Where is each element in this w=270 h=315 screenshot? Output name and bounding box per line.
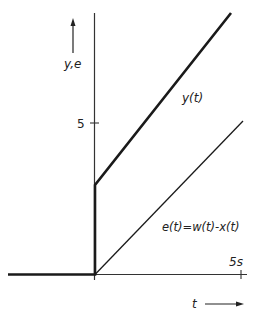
x-axis-label: t <box>192 297 198 311</box>
e-curve-label: e(t)=w(t)-x(t) <box>162 220 240 234</box>
step-response-diagram: y,e 5 y(t) e(t)=w(t)-x(t) 5s t <box>0 0 270 315</box>
e-curve <box>95 121 243 275</box>
y-curve <box>8 13 231 275</box>
x-tick-label: 5s <box>229 255 243 269</box>
y-tick-label: 5 <box>77 117 85 131</box>
y-curve-label: y(t) <box>181 91 203 105</box>
y-axis-label: y,e <box>63 57 81 71</box>
